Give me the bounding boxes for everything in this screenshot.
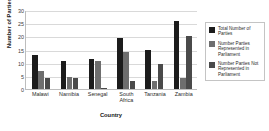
plot-area: 051015202530: [25, 11, 197, 90]
chart-legend: Total Number of PartiesNumber Parties Re…: [205, 22, 265, 81]
bar: [95, 61, 101, 89]
bar: [145, 50, 151, 90]
y-axis-title: Number of Parties: [6, 0, 12, 59]
x-axis-tick-label: SouthAfrica: [112, 91, 141, 103]
x-axis-tick-label: Namibia: [55, 91, 84, 103]
x-axis-title: Country: [25, 112, 197, 118]
legend-item[interactable]: Number Parties Represented in Parliament: [209, 41, 262, 57]
bar: [130, 81, 136, 89]
bar: [32, 55, 38, 89]
y-axis-tick-label: 5: [21, 74, 24, 80]
bar: [186, 36, 192, 89]
x-axis-tick-label: Senegal: [83, 91, 112, 103]
x-axis-tick-label: Malawi: [26, 91, 55, 103]
bar: [61, 61, 67, 89]
bar-group: [55, 11, 83, 89]
y-axis-tick-label: 30: [18, 8, 24, 14]
bar-group: [27, 11, 55, 89]
legend-swatch: [209, 62, 215, 68]
bar: [38, 71, 44, 89]
legend-item[interactable]: Total Number of Parties: [209, 26, 262, 37]
bar: [89, 59, 95, 89]
bar: [158, 64, 164, 89]
bar: [45, 78, 51, 89]
bar-group: [140, 11, 168, 89]
x-axis-tick-labels: MalawiNamibiaSenegalSouthAfricaTanzaniaZ…: [26, 91, 198, 103]
y-axis-tick-label: 0: [21, 87, 24, 93]
bar-chart: Number of Parties 051015202530 MalawiNam…: [0, 0, 269, 131]
legend-label: Number Parties Represented in Parliament: [218, 41, 262, 57]
bar: [123, 52, 129, 89]
x-axis-tick-label: Tanzania: [141, 91, 170, 103]
bar: [174, 21, 180, 89]
legend-label: Number Parties Not Represented in Parlia…: [218, 61, 262, 77]
bar: [180, 78, 186, 89]
bar-group: [169, 11, 197, 89]
legend-swatch: [209, 41, 215, 47]
y-axis-tick-label: 10: [18, 61, 24, 67]
y-axis-tick-label: 15: [18, 48, 24, 54]
legend-item[interactable]: Number Parties Not Represented in Parlia…: [209, 61, 262, 77]
bar-group: [112, 11, 140, 89]
bar: [152, 81, 158, 89]
bar-group: [84, 11, 112, 89]
bar: [101, 88, 107, 89]
y-axis-tick-label: 25: [18, 21, 24, 27]
legend-label: Total Number of Parties: [218, 26, 262, 37]
legend-swatch: [209, 27, 215, 33]
y-axis-tick-label: 20: [18, 34, 24, 40]
bar: [117, 38, 123, 89]
bar: [73, 78, 79, 89]
x-axis-tick-label: Zambia: [169, 91, 198, 103]
bar: [67, 77, 73, 89]
bar-groups: [27, 11, 197, 89]
